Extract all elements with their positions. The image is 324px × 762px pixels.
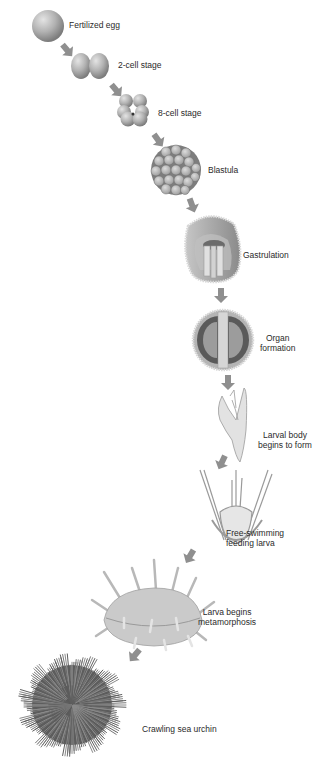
two-cell-figure: [71, 53, 109, 79]
label-sea-urchin: Crawling sea urchin: [142, 724, 217, 734]
label-line: metamorphosis: [198, 617, 256, 627]
gastrulation-figure: [185, 216, 240, 282]
fertilized-egg-figure: [32, 10, 64, 42]
arrow-icon: [180, 546, 200, 566]
label-8-cell-stage: 8-cell stage: [158, 108, 201, 118]
arrow-icon: [221, 375, 235, 390]
label-metamorphosis: Larva begins metamorphosis: [198, 607, 256, 627]
label-line: begins to form: [258, 440, 312, 450]
label-line: Larval body: [258, 430, 312, 440]
label-line: Free-swimming: [226, 528, 284, 538]
eight-cell-figure: [117, 94, 149, 127]
label-line: feeding larva: [226, 538, 284, 548]
label-fertilized-egg: Fertilized egg: [69, 20, 120, 30]
arrow-icon: [214, 288, 228, 303]
label-2-cell-stage: 2-cell stage: [118, 60, 161, 70]
label-free-swimming-larva: Free-swimming feeding larva: [226, 528, 284, 548]
label-line: Larva begins: [198, 607, 256, 617]
larval-body-figure: [218, 388, 246, 462]
blastula-figure: [151, 145, 201, 195]
label-gastrulation: Gastrulation: [243, 250, 289, 260]
label-larval-body: Larval body begins to form: [258, 430, 312, 450]
label-blastula: Blastula: [208, 165, 238, 175]
label-line: Organ: [260, 333, 295, 343]
label-organ-formation: Organ formation: [260, 333, 295, 353]
label-line: formation: [260, 343, 295, 353]
arrow-icon: [212, 453, 231, 473]
sea-urchin-figure: [19, 654, 126, 756]
metamorphosis-figure: [92, 560, 214, 650]
organ-formation-figure: [193, 310, 253, 370]
arrow-icon: [183, 196, 201, 215]
